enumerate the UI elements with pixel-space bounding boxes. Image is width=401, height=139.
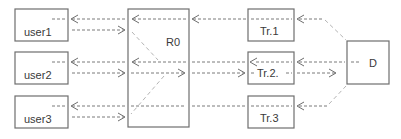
node-label: R0 xyxy=(166,36,180,48)
node-tr1: Tr.1 xyxy=(248,9,294,41)
node-user2: user2 xyxy=(15,52,68,84)
node-label: D xyxy=(369,57,377,69)
node-label: Tr.1 xyxy=(260,25,279,37)
node-r0: R0 xyxy=(128,9,189,127)
node-tr3: Tr.3 xyxy=(248,96,294,128)
edges-tr-d xyxy=(297,15,361,110)
edges-r0-tr xyxy=(192,15,246,106)
node-label: user2 xyxy=(24,69,52,81)
node-label: user3 xyxy=(24,113,52,125)
node-label: Tr.2. xyxy=(257,67,279,79)
node-label: Tr.3 xyxy=(260,112,279,124)
message-flow-diagram: user1 user2 user3 R0 Tr.1 Tr.2. Tr.3 D xyxy=(0,0,401,139)
node-user3: user3 xyxy=(15,96,68,128)
node-tr2: Tr.2. xyxy=(248,52,294,84)
node-label: user1 xyxy=(24,26,52,38)
node-user1: user1 xyxy=(15,9,68,41)
